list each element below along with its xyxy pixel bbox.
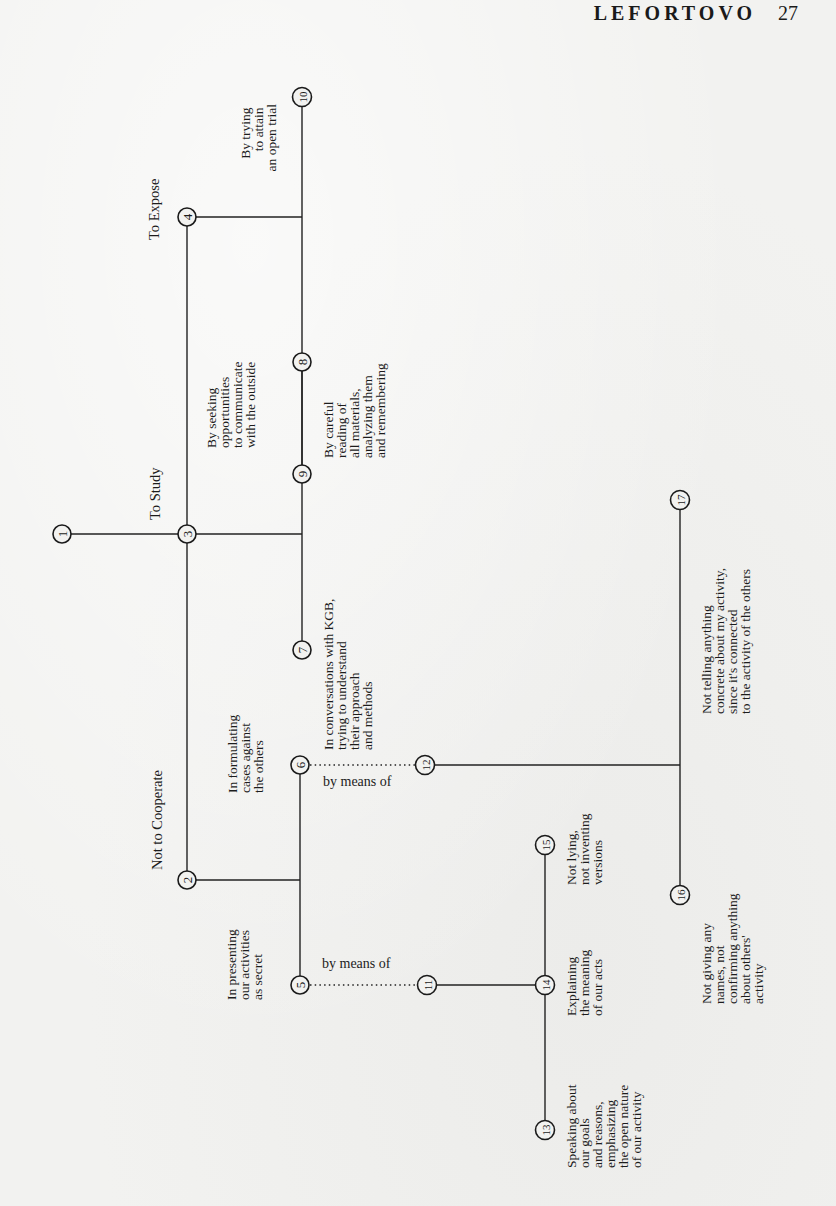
svg-text:12: 12 [420,760,432,771]
svg-text:2: 2 [180,877,195,884]
node-11: 11 [418,976,437,995]
node-17: 17 [671,491,690,510]
label-node-15: Not lying, not inventing versions [564,810,605,885]
svg-text:10: 10 [297,91,309,103]
label-node-14: Explaining the meaning of our acts [564,946,605,1016]
by-means-of-label-lower: by means of [322,956,391,971]
svg-text:9: 9 [295,471,310,478]
label-node-17: Not telling anything concrete about my a… [699,565,753,714]
node-7: 7 [293,641,311,659]
label-node-8: By careful reading of all materials, ana… [321,363,388,458]
node-1: 1 [53,525,71,543]
node-15: 15 [536,836,555,855]
svg-text:3: 3 [180,531,195,538]
label-node-7: In conversations with KGB, trying to und… [321,595,375,750]
label-node-10: By trying to attain an open trial [238,104,279,172]
node-14: 14 [536,976,555,995]
title-not-to-cooperate: Not to Cooperate [149,770,165,870]
svg-text:5: 5 [293,982,308,989]
svg-text:13: 13 [540,1124,552,1136]
node-3: 3 [178,525,196,543]
svg-text:1: 1 [55,531,70,538]
node-8: 8 [293,353,311,371]
node-2: 2 [178,871,196,889]
title-to-expose: To Expose [146,179,162,240]
svg-text:15: 15 [540,839,552,851]
node-16: 16 [671,886,690,905]
node-4: 4 [178,208,196,226]
svg-text:6: 6 [293,761,308,768]
title-to-study: To Study [147,467,163,520]
svg-text:8: 8 [295,359,310,366]
svg-text:14: 14 [540,979,552,991]
label-node-6: In formulating cases against the others [225,711,266,793]
label-node-5: In presenting our activities as secret [224,926,265,1000]
node-10: 10 [293,88,312,107]
node-6: 6 [291,756,309,774]
node-9: 9 [293,465,311,483]
label-node-9: By seeking opportunities to communicate … [204,358,258,448]
svg-text:11: 11 [422,980,434,991]
svg-text:16: 16 [675,889,687,901]
by-means-of-label-upper: by means of [323,774,392,789]
svg-text:4: 4 [180,213,195,220]
label-node-16: Not giving any names, not confirming any… [699,890,766,1004]
node-12: 12 [416,756,435,775]
svg-text:7: 7 [295,646,310,653]
node-5: 5 [291,976,309,994]
strategy-diagram: 1 2 3 4 5 6 7 8 9 10 11 12 [0,0,836,1206]
label-node-13: Speaking about our goals and reasons, em… [564,1081,644,1168]
node-13: 13 [536,1121,555,1140]
svg-text:17: 17 [675,494,687,506]
